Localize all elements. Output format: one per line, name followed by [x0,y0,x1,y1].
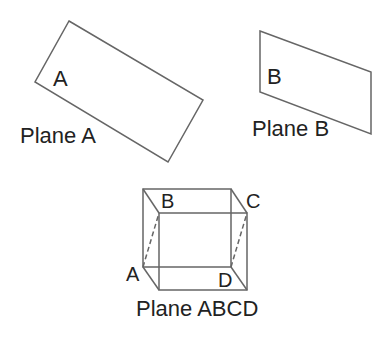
vertex-label-d: D [218,269,232,291]
cube-edge-top-right [231,189,247,213]
plane-abcd: B C A D Plane ABCD [126,189,260,321]
cube-back-face [143,189,231,267]
cube-edge-bottom-left [143,267,159,290]
plane-a-caption: Plane A [20,123,96,148]
plane-b-caption: Plane B [252,116,329,141]
cube-front-face [159,213,247,290]
vertex-label-b: B [161,190,174,212]
plane-edge-a-b-dashed [143,213,159,267]
plane-a-inner-label: A [53,66,68,91]
plane-b: B Plane B [252,31,371,141]
plane-abcd-caption: Plane ABCD [136,296,258,321]
cube-edge-top-left [143,189,159,213]
planes-diagram: A Plane A B Plane B B C A D Plane ABCD [0,0,386,339]
plane-a: A Plane A [20,21,203,162]
vertex-label-c: C [246,190,260,212]
plane-edge-d-c-dashed [231,213,247,267]
vertex-label-a: A [126,263,140,285]
plane-b-inner-label: B [267,64,282,89]
cube-edge-bottom-right [231,267,247,290]
